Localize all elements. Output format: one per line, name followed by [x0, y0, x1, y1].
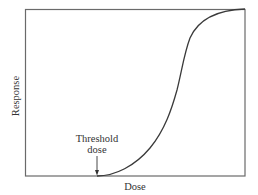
sigmoid-curve — [97, 9, 245, 176]
dose-response-chart — [0, 0, 258, 195]
threshold-arrow-head — [95, 170, 99, 176]
y-axis-label: Response — [10, 76, 21, 116]
x-axis-label: Dose — [0, 181, 258, 192]
annotation-line-2: dose — [76, 144, 119, 155]
annotation-line-1: Threshold — [76, 133, 119, 144]
threshold-dose-annotation: Threshold dose — [76, 133, 119, 155]
plot-frame — [26, 10, 246, 177]
